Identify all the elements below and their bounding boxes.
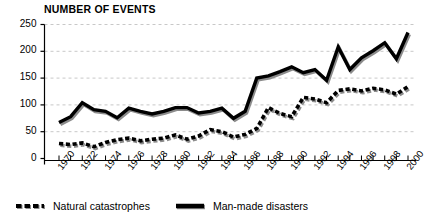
series-line (59, 33, 408, 123)
y-axis-tick-label: 200 (7, 44, 37, 55)
chart-plot-area (0, 0, 431, 222)
legend-entry-natural-catastrophes: Natural catastrophes (16, 200, 150, 212)
series-shadow (60, 34, 409, 124)
dashed-line-swatch-icon (16, 201, 46, 211)
chart-figure: NUMBER OF EVENTS 050100150200250 1970197… (0, 0, 431, 222)
chart-title: NUMBER OF EVENTS (44, 3, 156, 15)
y-axis-tick-label: 0 (7, 152, 37, 163)
legend-label: Natural catastrophes (53, 200, 150, 212)
legend-entry-man-made-disasters: Man-made disasters (176, 200, 308, 212)
y-axis-tick-label: 150 (7, 71, 37, 82)
chart-legend: Natural catastrophes Man-made disasters (16, 196, 416, 216)
legend-label: Man-made disasters (213, 200, 308, 212)
y-axis-tick-label: 250 (7, 18, 37, 29)
solid-line-swatch-icon (176, 201, 206, 211)
y-axis-tick-label: 100 (7, 98, 37, 109)
y-axis-tick-label: 50 (7, 125, 37, 136)
